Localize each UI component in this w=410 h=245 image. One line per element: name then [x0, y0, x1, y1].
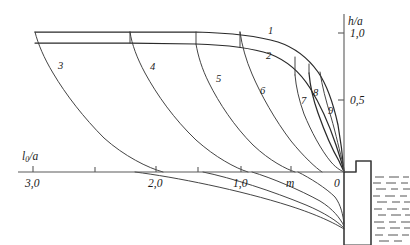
figure-container: h/a 1,0 0,5 l0/a 3,0 2,0 1,0 m 0 1 2 3 4…	[0, 0, 410, 245]
curve-6	[240, 32, 322, 172]
curve-5	[196, 44, 295, 172]
curve-2	[35, 43, 344, 172]
axis-labels: h/a 1,0 0,5 l0/a 3,0 2,0 1,0 m 0	[22, 15, 365, 190]
curve-label-4: 4	[150, 61, 156, 72]
curve-label-2: 2	[266, 50, 272, 61]
x-axis	[18, 166, 344, 172]
curve-label-5: 5	[216, 73, 221, 84]
curve-label-9: 9	[328, 105, 334, 116]
curve-label-6: 6	[260, 85, 266, 96]
water-body	[371, 172, 410, 245]
main-curves	[35, 32, 344, 172]
curve-label-1: 1	[268, 25, 273, 36]
x-tick-label-0: 0	[334, 177, 340, 189]
retaining-wall	[344, 161, 371, 245]
x-tick-label-2-0: 2,0	[148, 177, 163, 190]
x-axis-label: l0/a	[22, 150, 38, 164]
x-tick-label-3-0: 3,0	[24, 177, 40, 190]
curve-labels: 1 2 3 4 5 6 7 8 9	[57, 25, 334, 116]
diagram-svg: h/a 1,0 0,5 l0/a 3,0 2,0 1,0 m 0 1 2 3 4…	[0, 0, 410, 245]
x-tick-label-m: m	[286, 177, 294, 189]
curve-4	[130, 32, 248, 172]
curve-label-8: 8	[313, 87, 319, 98]
curve-3	[35, 32, 163, 172]
y-tick-label-0-5: 0,5	[350, 94, 365, 107]
curve-label-7: 7	[301, 95, 307, 106]
curve-label-3: 3	[57, 60, 63, 71]
curve-1	[35, 32, 344, 172]
y-axis-label: h/a	[348, 15, 363, 27]
y-tick-label-1-0: 1,0	[350, 27, 365, 40]
x-tick-label-1-0: 1,0	[233, 177, 248, 190]
